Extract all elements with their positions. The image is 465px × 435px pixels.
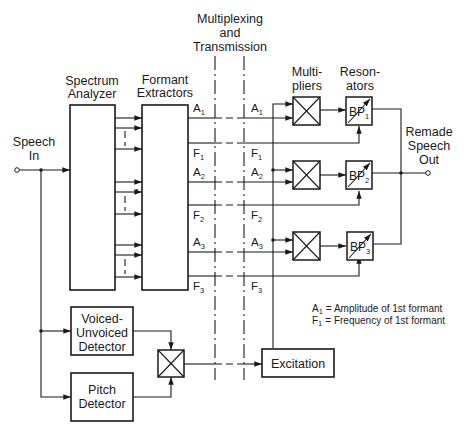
- junction-dot: [271, 238, 275, 242]
- svg-text:F1= Frequency of 1st formant: F1= Frequency of 1st formant: [312, 315, 445, 328]
- pitch-detector: Pitch Detector: [71, 373, 133, 421]
- svg-text:Extractors: Extractors: [137, 86, 193, 100]
- signal-labels-right: A1 F1 A2 F2 A3 F3: [251, 102, 263, 295]
- resonator-bp1: BP1: [346, 97, 372, 125]
- resonator-bp2: BP2: [346, 161, 372, 189]
- svg-text:F3: F3: [193, 280, 204, 295]
- svg-text:Unvoiced: Unvoiced: [76, 326, 128, 340]
- svg-text:pliers: pliers: [292, 79, 322, 93]
- svg-text:Out: Out: [419, 153, 440, 167]
- svg-text:Reson-: Reson-: [340, 65, 380, 79]
- speech-in-label: Speech In: [13, 135, 55, 163]
- junction-dot: [271, 168, 275, 172]
- svg-text:and: and: [220, 26, 241, 40]
- junction-dot: [399, 171, 403, 175]
- svg-text:Formant: Formant: [142, 73, 189, 87]
- formant-vocoder-diagram: Multiplexing and Transmission Spectrum A…: [0, 0, 465, 435]
- svg-text:Spectrum: Spectrum: [65, 74, 119, 88]
- junction-dot: [39, 329, 43, 333]
- signal-labels-left: A1 F1 A2 F2 A3 F3: [193, 102, 205, 295]
- resonators-label: Reson- ators: [340, 65, 380, 93]
- svg-text:A2: A2: [193, 166, 205, 181]
- analyzer-channel-arrows: [115, 118, 142, 277]
- multiplier-3: [293, 232, 320, 260]
- excitation-bus: [273, 104, 293, 348]
- svg-text:F1: F1: [193, 147, 204, 162]
- svg-text:A1: A1: [251, 102, 263, 117]
- svg-text:Pitch: Pitch: [88, 383, 116, 397]
- voiced-to-mult-line: [133, 331, 171, 350]
- svg-text:Multi-: Multi-: [292, 65, 323, 79]
- multipliers-label: Multi- pliers: [292, 65, 323, 93]
- svg-text:In: In: [29, 149, 39, 163]
- resonator-bp3: BP3: [347, 232, 373, 260]
- svg-text:Multiplexing: Multiplexing: [197, 12, 263, 26]
- spectrum-analyzer-box: [70, 105, 115, 290]
- svg-text:Detector: Detector: [78, 397, 125, 411]
- spectrum-analyzer-label: Spectrum Analyzer: [65, 74, 119, 101]
- source-multiplier: [158, 350, 184, 377]
- svg-text:F2: F2: [251, 209, 262, 224]
- svg-text:Voiced-: Voiced-: [81, 312, 123, 326]
- remade-speech-out-label: Remade Speech Out: [405, 125, 452, 167]
- formant-extractors-label: Formant Extractors: [137, 73, 193, 100]
- multiplier-2: [293, 161, 320, 189]
- svg-text:Speech: Speech: [13, 135, 55, 149]
- voiced-unvoiced-detector: Voiced- Unvoiced Detector: [71, 307, 133, 355]
- pitch-to-mult-line: [133, 377, 171, 397]
- to-pitch-detector-line: [41, 170, 71, 397]
- svg-text:Speech: Speech: [408, 139, 450, 153]
- legend: A1= Amplitude of 1st formant F1= Frequen…: [312, 303, 445, 328]
- multiplier-1: [293, 97, 320, 125]
- svg-text:Analyzer: Analyzer: [68, 87, 117, 101]
- svg-text:Transmission: Transmission: [193, 40, 267, 54]
- svg-text:F3: F3: [251, 280, 262, 295]
- svg-text:A3: A3: [193, 236, 205, 251]
- svg-text:Excitation: Excitation: [271, 357, 325, 371]
- svg-text:A3: A3: [251, 236, 263, 251]
- multiplexing-label: Multiplexing and Transmission: [193, 12, 267, 54]
- svg-text:Remade: Remade: [405, 125, 452, 139]
- output-bus: [372, 109, 401, 244]
- svg-text:A2: A2: [251, 166, 263, 181]
- excitation-box: Excitation: [262, 349, 334, 377]
- speech-out-terminal: [426, 171, 431, 176]
- svg-text:F1: F1: [251, 147, 262, 162]
- svg-text:ators: ators: [346, 79, 374, 93]
- formant-extractors-box: [142, 105, 188, 290]
- svg-text:A1: A1: [193, 102, 205, 117]
- svg-text:Detector: Detector: [78, 340, 125, 354]
- speech-in-terminal: [15, 168, 20, 173]
- svg-text:F2: F2: [193, 209, 204, 224]
